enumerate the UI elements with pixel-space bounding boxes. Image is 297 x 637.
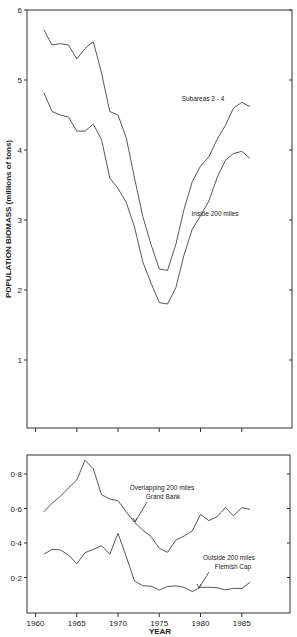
x-tick-label: 1970	[109, 619, 127, 628]
y-tick-label: 1	[18, 356, 23, 365]
x-tick-label: 1960	[27, 619, 45, 628]
y-tick-label: 2	[18, 286, 23, 295]
bottom-x-axis: 196019651970197519801985	[27, 613, 252, 628]
series-inside-200-miles	[44, 93, 250, 304]
x-tick-label: 1985	[233, 619, 251, 628]
label-subareas: Subareas 2 - 4	[182, 95, 225, 102]
x-tick-label: 1965	[68, 619, 86, 628]
top-chart: 123456 POPULATION BIOMASS (millions of t…	[4, 6, 292, 432]
label-overlapping-line1: Overlapping 200 miles	[130, 484, 195, 492]
y-tick-label: 0·8	[10, 470, 22, 479]
top-y-axis: 123456	[18, 6, 292, 365]
y-tick-label: 0·4	[10, 539, 22, 548]
y-tick-label: 0·6	[10, 505, 22, 514]
y-tick-label: 6	[18, 6, 23, 15]
y-tick-label: 3	[18, 216, 23, 225]
top-chart-frame	[27, 10, 292, 428]
top-x-axis-ticks	[36, 428, 242, 432]
bottom-chart: 0·20·40·60·8 196019651970197519801985 Ov…	[10, 455, 290, 636]
x-tick-label: 1980	[192, 619, 210, 628]
top-y-axis-title: POPULATION BIOMASS (millions of tons)	[4, 140, 13, 298]
y-tick-label: 5	[18, 76, 23, 85]
label-outside-line1: Outside 200 miles	[203, 554, 256, 561]
y-tick-label: 4	[18, 146, 23, 155]
bottom-series	[44, 460, 250, 591]
series-overlapping-200-miles-grand-bank	[44, 460, 250, 552]
label-outside-line2: Flemish Cap	[215, 563, 252, 571]
x-axis-title: YEAR	[149, 627, 171, 636]
biomass-figure: 123456 POPULATION BIOMASS (millions of t…	[0, 0, 297, 637]
label-inside-200: Inside 200 miles	[192, 210, 240, 217]
series-subareas-2-4	[44, 30, 250, 271]
y-tick-label: 0·2	[10, 574, 22, 583]
top-series	[44, 30, 250, 304]
label-overlapping-line2: Grand Bank	[146, 493, 181, 500]
